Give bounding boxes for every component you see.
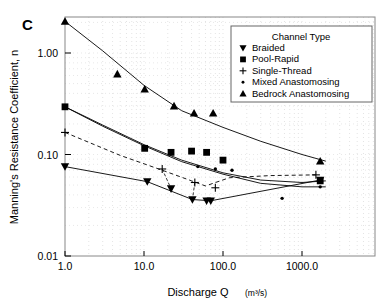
data-marker-square [203, 149, 210, 156]
legend-item-label: Single-Thread [252, 65, 312, 76]
manning-resistance-chart: 1.010.0100.01000.01.000.100.01 C Manning… [0, 0, 392, 306]
data-marker-dot [280, 197, 283, 200]
data-marker-square [168, 149, 175, 156]
legend-item-label: Braided [252, 42, 285, 53]
legend-item-label: Mixed Anastomosing [252, 76, 340, 87]
legend-title: Channel Type [272, 31, 330, 42]
legend-item-label: Bedrock Anastomosing [252, 88, 349, 99]
data-marker-dot [319, 185, 322, 188]
data-marker-square [188, 148, 195, 155]
x-axis-units: (m³/s) [245, 288, 267, 298]
legend: Channel Type BraidedPool-RapidSingle-Thr… [231, 26, 372, 102]
data-marker-dot [214, 167, 217, 170]
x-tick-label: 1000.0 [286, 260, 318, 272]
x-tick-label: 1.0 [58, 260, 73, 272]
figure-panel-c: 1.010.0100.01000.01.000.100.01 C Manning… [0, 0, 392, 306]
x-tick-label: 100.0 [210, 260, 236, 272]
data-marker-dot [230, 169, 233, 172]
y-axis-title: Manning's Resistance Coefficient, n [8, 50, 20, 224]
x-tick-label: 10.0 [134, 260, 155, 272]
y-tick-label: 0.10 [38, 149, 59, 161]
data-marker-square [141, 145, 148, 152]
data-marker-square [240, 57, 246, 63]
legend-item-label: Pool-Rapid [252, 53, 299, 64]
panel-label: C [22, 16, 33, 33]
data-marker-dot [242, 81, 245, 84]
y-tick-label: 1.00 [38, 47, 59, 59]
y-tick-label: 0.01 [38, 250, 59, 262]
data-marker-square [220, 157, 227, 164]
data-marker-dot [63, 105, 66, 108]
x-axis-title: Discharge Q [167, 286, 229, 298]
data-marker-dot [196, 165, 199, 168]
